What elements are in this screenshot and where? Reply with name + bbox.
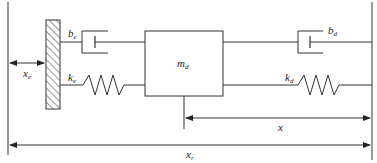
- label-ke: ke: [68, 72, 76, 85]
- label-be: be: [68, 28, 77, 41]
- label-bd: bd: [328, 25, 337, 38]
- right-damper: [223, 31, 372, 53]
- mass-spring-damper-diagram: be ke xe md bd kd x xr: [0, 0, 377, 163]
- diagram-drawing: [0, 0, 377, 163]
- hatched-wall: [46, 20, 60, 109]
- label-x: x: [278, 122, 283, 133]
- label-xr: xr: [186, 149, 194, 162]
- right-spring: [223, 75, 372, 95]
- label-md: md: [177, 58, 188, 71]
- label-kd: kd: [285, 72, 293, 85]
- label-xe: xe: [23, 68, 31, 81]
